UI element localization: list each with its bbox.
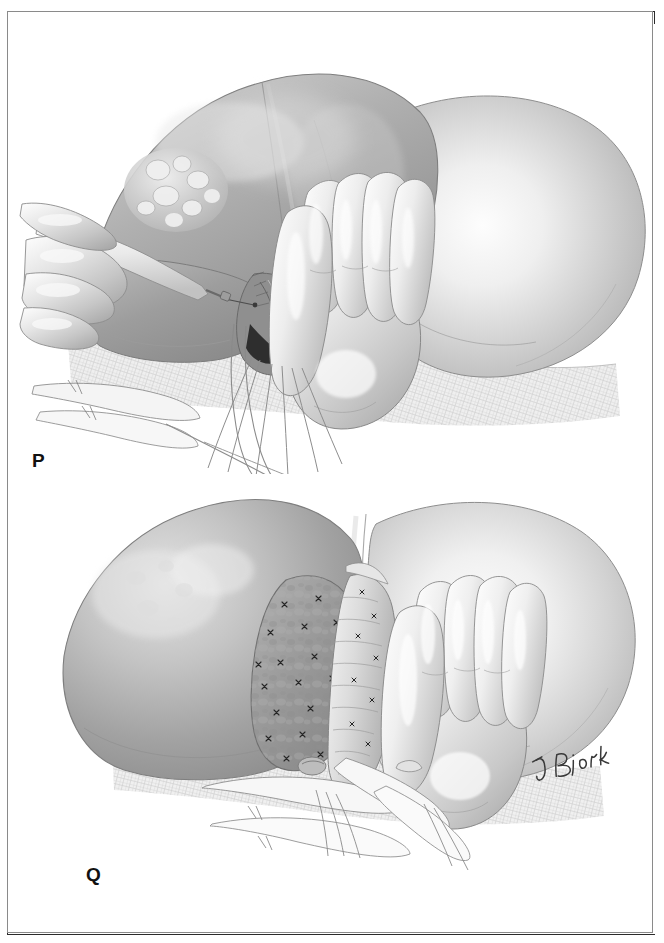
- surgical-drains-q: [202, 758, 470, 870]
- tumor-nodules-p: [124, 148, 228, 232]
- hepatic-pedicle-p: [237, 272, 313, 375]
- panel-p: [16, 24, 662, 484]
- right-liver-lobe-p: [365, 96, 646, 377]
- suture-ligatures-q: [256, 596, 355, 761]
- electrocautery-dissector-p: [36, 220, 257, 307]
- divided-vascular-pedicle-q: [328, 563, 396, 794]
- artist-signature: [529, 739, 612, 788]
- panel-label-q: Q: [86, 864, 101, 886]
- laparotomy-gauze-p: [68, 324, 620, 426]
- panel-q: [16, 474, 662, 934]
- cut-parenchymal-surface-q: [251, 576, 361, 771]
- liver-dome-p: [94, 74, 438, 328]
- gloved-retracting-hand-q: [381, 576, 547, 830]
- right-liver-lobe-q: [352, 502, 635, 781]
- falciform-ligament-p: [262, 82, 344, 320]
- gloved-retracting-hand-p: [269, 172, 435, 429]
- surgical-clamps-p: [32, 380, 288, 476]
- plate-frame: P Q: [7, 11, 655, 935]
- gloved-hand-holding-instrument-p: [20, 203, 127, 349]
- remnant-liver-lobe-q: [63, 500, 365, 780]
- ligated-stump-q: [298, 757, 326, 775]
- laparotomy-gauze-q: [112, 729, 604, 824]
- suction-tubing-p: [231, 324, 276, 482]
- lower-liver-segment-p: [88, 259, 275, 363]
- panel-label-p: P: [32, 450, 45, 472]
- panel-p-artwork: [16, 24, 662, 484]
- panel-q-artwork: [16, 474, 662, 934]
- vascular-tapes-and-tubing-p: [208, 358, 342, 476]
- illustration-plate: P Q: [0, 0, 664, 943]
- highlight-wash-p: [216, 94, 356, 184]
